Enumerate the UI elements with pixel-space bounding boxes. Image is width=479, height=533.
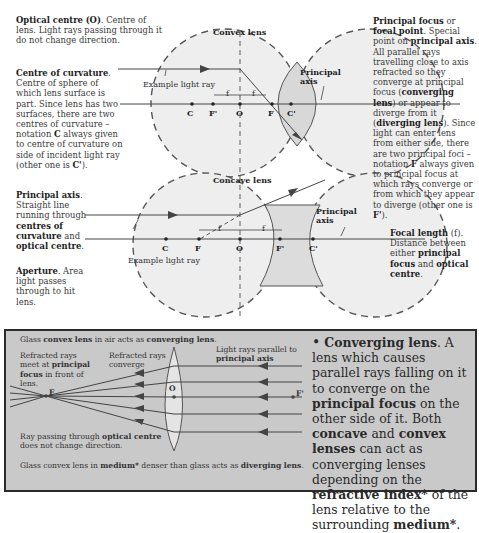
example-light-ray-label-1: Example light ray bbox=[143, 80, 215, 89]
refracted-rays-meet-label: Refracted rays meet at principal focus i… bbox=[20, 351, 90, 389]
point-C: C bbox=[162, 243, 168, 253]
point-F: F bbox=[49, 388, 54, 397]
point-O: O bbox=[236, 108, 243, 118]
optical-centre-note: Optical centre (O). Centre of lens. Ligh… bbox=[16, 15, 166, 46]
point-O: O bbox=[169, 384, 176, 393]
point-O: O bbox=[236, 243, 243, 253]
aperture-note: Aperture. Area light passes through to h… bbox=[16, 266, 88, 307]
focal-marker-1: f bbox=[226, 89, 229, 98]
concave-sphere-left bbox=[133, 173, 277, 317]
point-C: C bbox=[187, 108, 193, 118]
point-F-prime: F' bbox=[209, 108, 217, 118]
panel-header: Glass convex lens in air acts as converg… bbox=[20, 335, 320, 344]
concave-lens-title: Concave lens bbox=[213, 175, 272, 185]
point-F: F bbox=[195, 243, 201, 253]
convex-lens-title: Convex lens bbox=[213, 27, 266, 37]
point-C-prime: C' bbox=[309, 243, 318, 253]
principal-axis-label-1: Principal axis bbox=[300, 68, 340, 86]
ray-optical-centre-label: Ray passing through optical centre does … bbox=[20, 432, 180, 451]
example-light-ray-label-2: Example light ray bbox=[128, 256, 200, 265]
focal-marker-3: f bbox=[218, 224, 221, 233]
panel-footer: Glass convex lens in medium* denser than… bbox=[20, 461, 320, 470]
principal-axis-label-2: Principal axis bbox=[316, 207, 356, 225]
point-F-prime: F' bbox=[276, 243, 284, 253]
point-C-prime: C' bbox=[287, 108, 296, 118]
convex-sphere-left bbox=[151, 29, 299, 177]
point-F: F bbox=[268, 108, 274, 118]
parallel-rays-label: Light rays parallel to principal axis bbox=[216, 345, 301, 364]
converging-lens-panel: Glass convex lens in air acts as converg… bbox=[4, 329, 477, 492]
focal-marker-2: f bbox=[252, 89, 255, 98]
converging-lens-definition: •Converging lens. A lens which causes pa… bbox=[312, 335, 477, 533]
centre-of-curvature-note: Centre of curvature. Centre of sphere of… bbox=[16, 68, 126, 170]
focal-marker-4: f bbox=[262, 224, 265, 233]
focal-length-note: Focal length (f). Distance between eithe… bbox=[390, 228, 476, 279]
principal-focus-note: Principal focus or focal point. Special … bbox=[373, 16, 477, 220]
refracted-rays-converge-label: Refracted rays converge bbox=[109, 351, 169, 370]
point-F-prime: F' bbox=[296, 389, 304, 398]
principal-axis-note: Principal axis. Straight line running th… bbox=[16, 190, 91, 251]
